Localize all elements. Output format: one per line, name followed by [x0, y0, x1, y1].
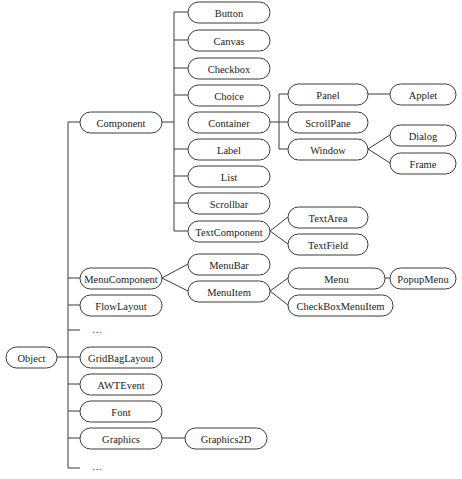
- node-label: CheckBoxMenuItem: [296, 301, 384, 312]
- node-label: Label: [217, 145, 241, 156]
- class-node-scrollpane: ScrollPane: [288, 112, 368, 133]
- class-node-popupmenu: PopupMenu: [390, 268, 456, 289]
- node-label: Dialog: [409, 131, 438, 142]
- node-label: Scrollbar: [210, 199, 249, 210]
- ellipsis-marker: …: [92, 461, 102, 472]
- node-label: Window: [310, 145, 346, 156]
- node-label: AWTEvent: [97, 380, 145, 391]
- node-label: PopupMenu: [397, 274, 449, 285]
- node-label: Font: [111, 407, 130, 418]
- class-node-menucomponent: MenuComponent: [80, 268, 162, 289]
- class-node-awtevent: AWTEvent: [80, 374, 162, 395]
- class-hierarchy-diagram: ObjectComponentButtonCanvasCheckboxChoic…: [0, 0, 462, 479]
- class-node-container: Container: [188, 112, 270, 133]
- class-nodes: ObjectComponentButtonCanvasCheckboxChoic…: [6, 2, 456, 449]
- class-node-dialog: Dialog: [390, 125, 456, 146]
- node-label: Button: [215, 8, 244, 19]
- class-node-button: Button: [188, 2, 270, 23]
- class-node-menubar: MenuBar: [188, 254, 270, 275]
- node-label: TextField: [308, 240, 349, 251]
- node-label: Object: [18, 353, 46, 364]
- node-label: Menu: [324, 274, 349, 285]
- class-node-gridbaglayout: GridBagLayout: [80, 347, 162, 368]
- node-label: ScrollPane: [305, 118, 351, 129]
- node-label: MenuBar: [209, 260, 249, 271]
- class-node-textarea: TextArea: [288, 207, 368, 228]
- class-node-panel: Panel: [288, 84, 368, 105]
- node-label: Panel: [316, 90, 339, 101]
- node-label: TextComponent: [195, 227, 263, 238]
- node-label: Container: [208, 118, 250, 129]
- class-node-checkboxmenuitem: CheckBoxMenuItem: [288, 295, 393, 316]
- node-label: Applet: [409, 90, 438, 101]
- class-node-label: Label: [188, 139, 270, 160]
- node-label: Canvas: [214, 36, 245, 47]
- node-label: FlowLayout: [95, 301, 146, 312]
- node-label: Frame: [410, 159, 437, 170]
- class-node-graphics2d: Graphics2D: [185, 428, 267, 449]
- node-label: Choice: [214, 91, 244, 102]
- node-label: Checkbox: [208, 64, 251, 75]
- class-node-choice: Choice: [188, 85, 270, 106]
- class-node-scrollbar: Scrollbar: [188, 193, 270, 214]
- class-node-menuitem: MenuItem: [188, 281, 270, 302]
- class-node-textfield: TextField: [288, 234, 368, 255]
- class-node-window: Window: [288, 139, 368, 160]
- class-node-object: Object: [6, 347, 57, 368]
- node-label: TextArea: [309, 213, 348, 224]
- node-label: List: [221, 172, 237, 183]
- class-node-component: Component: [80, 112, 162, 133]
- class-node-applet: Applet: [390, 84, 456, 105]
- node-label: Graphics: [102, 434, 140, 445]
- node-label: MenuComponent: [84, 274, 158, 285]
- class-node-graphics: Graphics: [80, 428, 162, 449]
- class-node-flowlayout: FlowLayout: [80, 295, 162, 316]
- node-label: MenuItem: [207, 287, 251, 298]
- class-node-textcomponent: TextComponent: [188, 221, 270, 242]
- class-node-font: Font: [80, 401, 162, 422]
- node-label: GridBagLayout: [88, 353, 154, 364]
- class-node-menu: Menu: [288, 268, 385, 289]
- ellipsis-marker: …: [92, 324, 102, 335]
- class-node-checkbox: Checkbox: [188, 58, 270, 79]
- class-node-canvas: Canvas: [188, 30, 270, 51]
- class-node-list: List: [188, 166, 270, 187]
- node-label: Component: [97, 118, 146, 129]
- class-node-frame: Frame: [390, 153, 456, 174]
- ellipsis-markers: ……: [92, 324, 102, 472]
- node-label: Graphics2D: [201, 434, 252, 445]
